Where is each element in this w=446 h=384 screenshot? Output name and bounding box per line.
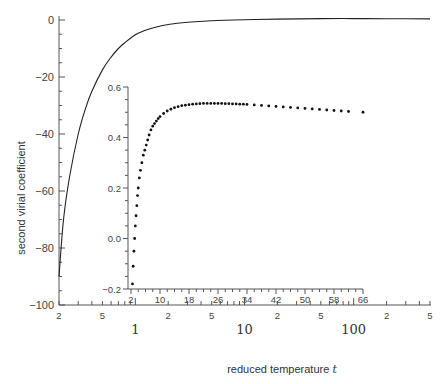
- inset-data-point: [325, 109, 328, 112]
- inset-data-point: [275, 105, 278, 108]
- inset-data-point: [180, 104, 183, 107]
- inset-data-point: [132, 265, 135, 268]
- inset-data-point: [311, 108, 314, 111]
- inset-data-point: [296, 107, 299, 110]
- inset-data-point: [139, 169, 142, 172]
- y-tick-label: −100: [29, 299, 54, 311]
- inset-x-tick-label: 42: [271, 294, 282, 305]
- inset-data-point: [253, 104, 256, 107]
- inset-data-point: [135, 204, 138, 207]
- y-tick-label: −80: [35, 242, 54, 254]
- inset-data-point: [134, 224, 137, 227]
- x-tick-label: 100: [341, 322, 366, 337]
- y-tick-label: −60: [35, 185, 54, 197]
- inset-data-point: [289, 106, 292, 109]
- inset-data-point: [166, 110, 169, 113]
- inset-data-point: [246, 103, 249, 106]
- inset-data-point: [135, 214, 138, 217]
- inset-data-point: [162, 112, 165, 115]
- inset-data-point: [143, 149, 146, 152]
- inset-data-point: [238, 103, 241, 106]
- inset-x-tick-label: 2: [128, 294, 133, 305]
- chart: 0−20−40−60−80−10025125102510025 −0.20.00…: [0, 0, 446, 384]
- inset-data-point: [209, 102, 212, 105]
- inset-data-point: [173, 106, 176, 109]
- inset-y-tick-label: 0.2: [108, 183, 121, 194]
- x-axis-title: reduced temperature t: [227, 363, 337, 376]
- inset-data-point: [195, 103, 198, 106]
- inset-x-tick-label: 66: [358, 294, 369, 305]
- inset-data-point: [136, 194, 139, 197]
- inset-data-point: [242, 103, 245, 106]
- inset-data-point: [304, 107, 307, 110]
- inset-data-point: [231, 103, 234, 106]
- inset-data-point: [318, 108, 321, 111]
- inset-data-point: [159, 115, 162, 118]
- x-tick-label: 5: [318, 310, 323, 321]
- x-tick-label: 5: [100, 310, 105, 321]
- inset-x-tick-label: 10: [155, 294, 166, 305]
- inset-x-tick-label: 18: [184, 294, 195, 305]
- inset-data-point: [220, 102, 223, 105]
- x-tick-label: 2: [166, 310, 171, 321]
- inset-data-point: [150, 129, 153, 132]
- inset-data-point: [188, 103, 191, 106]
- inset-data-point: [267, 105, 270, 108]
- inset-x-tick-label: 58: [329, 294, 340, 305]
- inset-data-point: [333, 109, 336, 112]
- inset-data-point: [340, 110, 343, 113]
- x-tick-label: 2: [56, 310, 61, 321]
- x-tick-label: 10: [236, 322, 253, 337]
- inset-data-point: [227, 102, 230, 105]
- inset-data-point: [260, 104, 263, 107]
- inset-data-point: [155, 120, 158, 123]
- y-tick-label: 0: [48, 14, 54, 26]
- inset-data-point: [169, 108, 172, 111]
- inset-y-tick-label: 0.0: [108, 233, 121, 244]
- x-tick-label: 5: [209, 310, 214, 321]
- inset-y-tick-label: −0.2: [102, 284, 121, 295]
- inset-data-point: [191, 103, 194, 106]
- x-tick-label: 2: [384, 310, 389, 321]
- y-tick-label: −20: [35, 71, 54, 83]
- inset-x-tick-label: 26: [213, 294, 224, 305]
- inset-x-tick-label: 50: [300, 294, 311, 305]
- inset-y-tick-label: 0.4: [108, 132, 121, 143]
- inset-y-tick-label: 0.6: [108, 82, 121, 93]
- inset-data-point: [151, 125, 154, 128]
- inset-axes: −0.20.00.20.40.621018263442505866: [102, 82, 368, 306]
- inset-data-point: [146, 139, 149, 142]
- inset-data-point: [137, 187, 140, 190]
- inset-data-point: [148, 134, 151, 137]
- inset-data-point: [235, 103, 238, 106]
- y-tick-label: −40: [35, 128, 54, 140]
- inset-data-point: [213, 102, 216, 105]
- x-tick-label: 5: [427, 310, 432, 321]
- inset-plot-area: [131, 102, 364, 285]
- inset-data-point: [177, 105, 180, 108]
- inset-data-point: [184, 104, 187, 107]
- inset-data-point: [224, 102, 227, 105]
- inset-data-point: [362, 111, 365, 114]
- x-tick-label: 2: [275, 310, 280, 321]
- inset-data-point: [142, 154, 145, 157]
- inset-data-point: [131, 283, 134, 286]
- y-axis-title: second virial coefficient: [15, 141, 27, 255]
- inset-data-point: [145, 144, 148, 147]
- inset-x-tick-label: 34: [242, 294, 253, 305]
- inset-data-point: [282, 106, 285, 109]
- inset-data-point: [133, 250, 136, 253]
- x-tick-label: 1: [131, 322, 139, 337]
- inset-data-point: [153, 122, 156, 125]
- inset-data-point: [202, 102, 205, 105]
- inset-data-point: [347, 110, 350, 113]
- inset-data-point: [138, 177, 141, 180]
- inset-data-point: [206, 102, 209, 105]
- inset-data-point: [133, 237, 136, 240]
- inset-data-point: [140, 161, 143, 164]
- inset-data-point: [198, 102, 201, 105]
- inset-data-point: [217, 102, 220, 105]
